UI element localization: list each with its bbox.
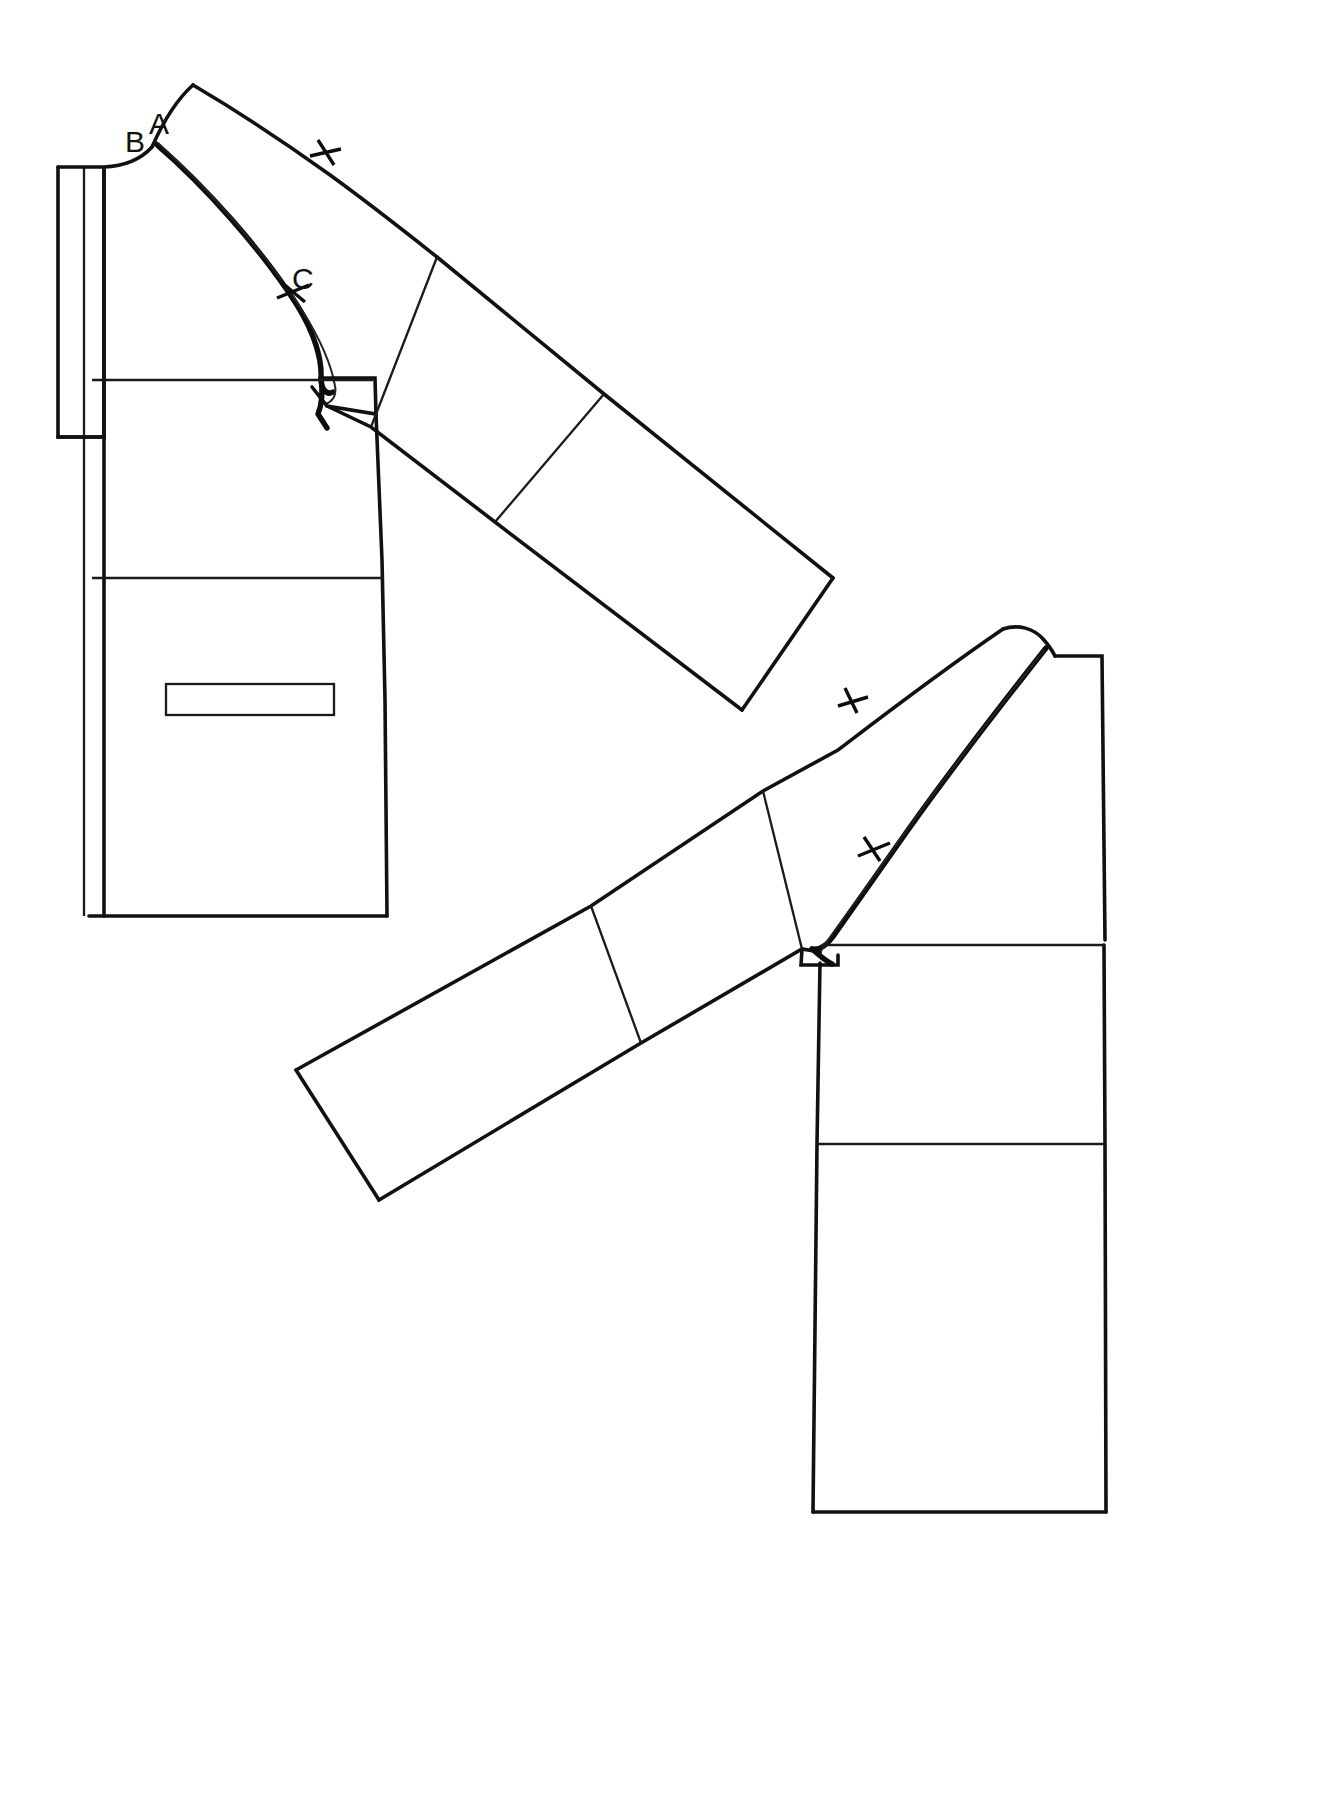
- back-piece-group: [296, 627, 1106, 1512]
- point-label-c: C: [292, 262, 314, 295]
- point-label-a: A: [149, 107, 169, 140]
- front-piece-group: A B C: [58, 85, 833, 916]
- front-sleeve-division-seam-2: [495, 394, 604, 522]
- front-sleeve-cuff-edge: [742, 578, 833, 710]
- back-side-seam: [813, 963, 820, 1512]
- front-sleeve-cap-notch-icon: [310, 140, 341, 165]
- front-sleeve-division-seam-1: [371, 257, 437, 427]
- front-pocket-welt: [166, 684, 334, 715]
- front-sleeve-upper-seam: [193, 85, 833, 578]
- front-side-seam: [376, 414, 387, 916]
- pattern-draft-canvas: A B C: [0, 0, 1342, 1806]
- back-center-back-lower-edge: [1104, 945, 1106, 1512]
- back-sleeve-cap-notch-icon: [838, 688, 868, 713]
- pattern-sheet: A B C: [0, 0, 1342, 1806]
- back-sleeve-division-seam-2: [591, 906, 641, 1043]
- front-sleeve-under-seam: [327, 406, 742, 710]
- back-center-back-edge: [1055, 656, 1105, 940]
- back-sleeve-division-seam-1: [763, 791, 802, 949]
- back-sleeve-cuff-edge: [296, 1070, 379, 1200]
- back-armhole-notch-icon: [858, 837, 890, 861]
- front-facing-outer-edge: [58, 167, 104, 437]
- point-label-b: B: [125, 125, 145, 158]
- back-shoulder-cap-curve: [1003, 627, 1055, 656]
